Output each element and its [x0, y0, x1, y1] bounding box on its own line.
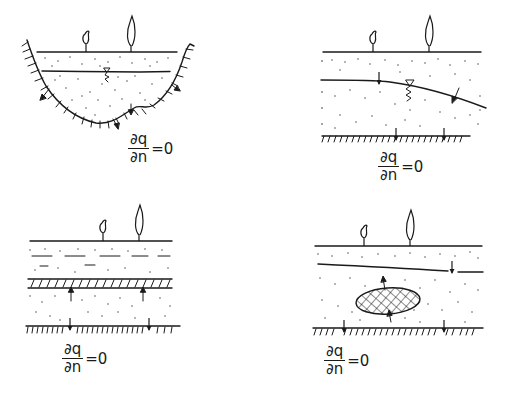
equation-rhs: =0: [347, 352, 369, 370]
impermeable-base-hatching: [314, 329, 474, 335]
boundary-condition-equation: ∂q ∂n =0: [324, 344, 369, 377]
equation-numerator: ∂q: [62, 342, 83, 358]
plant-icon: [135, 205, 143, 241]
perched-water-line: [318, 264, 448, 271]
equation-denominator: ∂n: [62, 359, 83, 375]
recharge-arrow: [450, 261, 455, 274]
impermeable-boundary-hatching: [22, 42, 193, 128]
plant-icon: [83, 31, 89, 52]
water-table-marker: [104, 68, 110, 82]
panel-lens-aquifer: [313, 210, 483, 335]
diagram-canvas: [0, 0, 511, 396]
recharge-arrow: [452, 88, 459, 103]
water-table-marker: [406, 80, 414, 101]
panel-layered-aquifer: [26, 205, 180, 333]
leakage-arrow: [394, 128, 399, 141]
upper-layer-streaks: [32, 256, 170, 266]
boundary-condition-equation: ∂q ∂n =0: [62, 342, 107, 375]
plant-icon: [370, 31, 376, 52]
leakage-arrow: [442, 128, 447, 141]
leakage-arrow: [68, 318, 73, 331]
equation-rhs: =0: [151, 140, 173, 158]
plant-icon: [406, 210, 414, 246]
recharge-arrow: [377, 72, 382, 85]
panel-sloping-water-table: [321, 16, 486, 142]
panel-basin-aquifer: [22, 16, 194, 129]
plant-icon: [425, 16, 433, 52]
boundary-condition-equation: ∂q ∂n =0: [378, 150, 423, 183]
equation-denominator: ∂n: [128, 149, 149, 165]
water-table: [321, 80, 486, 108]
equation-denominator: ∂n: [324, 361, 345, 377]
upward-leakage-arrows: [69, 287, 146, 301]
equation-numerator: ∂q: [324, 344, 345, 360]
plant-icon: [361, 225, 367, 246]
plant-icon: [100, 220, 106, 241]
sediment-stipple: [29, 248, 170, 320]
equation-rhs: =0: [85, 350, 107, 368]
aquitard-hatching: [31, 280, 170, 287]
equation-numerator: ∂q: [128, 132, 149, 148]
boundary-condition-equation: ∂q ∂n =0: [128, 132, 173, 165]
outflow-arrows: [40, 85, 180, 129]
equation-rhs: =0: [401, 158, 423, 176]
plant-icon: [127, 16, 135, 52]
leakage-arrow: [442, 320, 447, 333]
impermeable-base-hatching: [322, 136, 462, 142]
equation-numerator: ∂q: [378, 150, 399, 166]
equation-denominator: ∂n: [378, 167, 399, 183]
leakage-arrow: [147, 318, 152, 331]
